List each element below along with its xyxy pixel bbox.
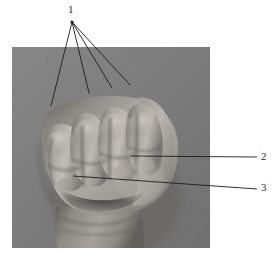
- callout-label-2: 2: [261, 151, 267, 162]
- figure-root: 1 2 3: [0, 0, 278, 254]
- photo-grain: [12, 47, 210, 248]
- callout-1-anchor-dot: [70, 20, 73, 23]
- callout-label-3: 3: [261, 182, 267, 193]
- fist-photo-artwork: [12, 47, 210, 248]
- callout-label-1: 1: [68, 4, 74, 15]
- fist-photograph: [12, 47, 210, 248]
